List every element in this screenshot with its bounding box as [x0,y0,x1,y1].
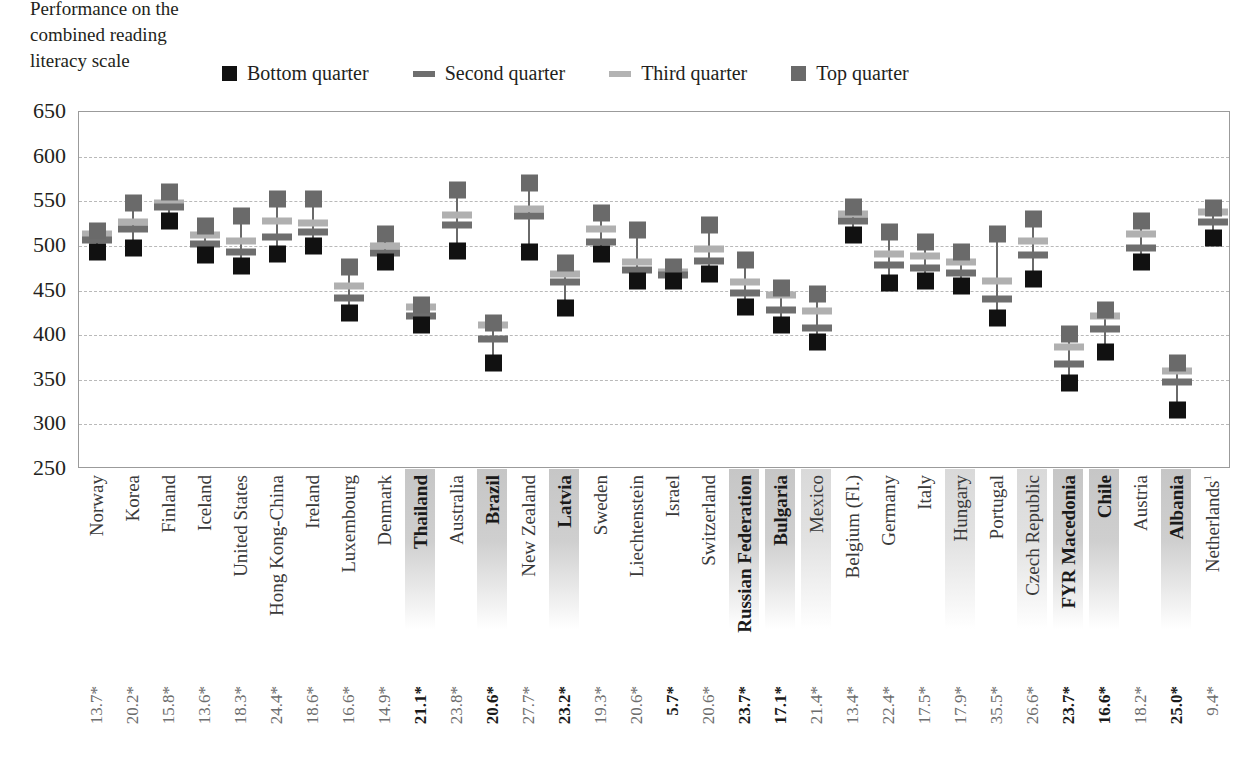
x-axis-label-text: Chile [1095,475,1114,518]
percent-value-column: 26.6* [1014,684,1050,758]
marker-second-quarter [1054,360,1084,367]
x-axis-label-text: United States [231,475,250,577]
x-axis-label-text: Portugal [987,475,1006,539]
percent-value-column: 9.4* [1194,684,1230,758]
marker-third-quarter [226,238,256,245]
legend-item-bottom-quarter[interactable]: Bottom quarter [222,62,369,85]
data-column [727,112,763,467]
x-axis-label-column: Korea [114,469,150,667]
x-axis-label-column: Luxembourg [330,469,366,667]
x-axis-label-text: Austria [1131,475,1150,531]
percent-value-column: 18.3* [222,684,258,758]
percent-value-column: 23.7* [726,684,762,758]
data-column [1087,112,1123,467]
marker-third-quarter [1054,343,1084,350]
marker-top-quarter [557,254,574,271]
marker-top-quarter [1097,302,1114,319]
legend-item-third-quarter[interactable]: Third quarter [609,62,747,85]
marker-top-quarter [1061,326,1078,343]
percent-value-column: 25.0* [1158,684,1194,758]
x-axis-label-text: Russian Federation [735,475,754,633]
percent-value-column: 17.9* [942,684,978,758]
legend-label-bottom-quarter: Bottom quarter [247,62,369,85]
marker-third-quarter [262,217,292,224]
x-axis-label-column: Switzerland [690,469,726,667]
marker-bottom-quarter [737,298,754,315]
x-axis-label-column: Portugal [978,469,1014,667]
x-axis-label-text: Korea [123,475,142,521]
x-axis-label-text: Czech Republic [1023,475,1042,596]
legend-label-third-quarter: Third quarter [641,62,747,85]
x-axis-label-column: Iceland [186,469,222,667]
y-tick-label-600: 600 [33,143,66,169]
marker-bottom-quarter [413,317,430,334]
marker-top-quarter [809,286,826,303]
legend-item-top-quarter[interactable]: Top quarter [791,62,908,85]
x-axis-label-column: Norway [78,469,114,667]
legend-label-top-quarter: Top quarter [816,62,908,85]
marker-bottom-quarter [125,239,142,256]
x-axis-label-text: Sweden [591,475,610,535]
x-axis-label-text: Belgium (Fl.) [843,475,862,578]
x-axis-label-text: Denmark [375,475,394,546]
data-column [403,112,439,467]
plot-area [78,111,1230,468]
x-axis-label-column: Denmark [366,469,402,667]
percent-value-text: 23.7* [1060,686,1077,724]
x-axis-label-text: Bulgaria [771,475,790,546]
data-column [655,112,691,467]
y-tick-label-350: 350 [33,366,66,392]
percent-value-text: 16.6* [340,686,357,724]
x-axis-label-text: Albania [1167,475,1186,539]
marker-second-quarter [154,204,184,211]
x-axis-label-column: New Zealand [510,469,546,667]
y-axis: 250300350400450500550600650 [0,111,72,468]
percent-value-column: 16.6* [1086,684,1122,758]
percent-value-text: 14.9* [376,686,393,724]
caption-line-3: literacy scale [30,48,220,74]
data-column [979,112,1015,467]
percent-value-text: 13.6* [196,686,213,724]
marker-bottom-quarter [161,212,178,229]
x-axis-label-column: Latvia [546,469,582,667]
marker-top-quarter [485,314,502,331]
x-axis-label-column: Mexico [798,469,834,667]
data-column [79,112,115,467]
marker-second-quarter [910,265,940,272]
marker-bottom-quarter [485,354,502,371]
legend-item-second-quarter[interactable]: Second quarter [413,62,566,85]
x-axis-label-text: Netherlands1 [1202,475,1221,572]
chart-legend: Bottom quarter Second quarter Third quar… [222,62,909,85]
marker-third-quarter [1018,238,1048,245]
data-column [475,112,511,467]
marker-top-quarter [161,184,178,201]
marker-third-quarter [694,245,724,252]
percent-value-text: 15.8* [160,686,177,724]
percent-value-column: 19.3* [582,684,618,758]
data-column [835,112,871,467]
marker-bottom-quarter [1061,375,1078,392]
bottom-percent-values: 13.7*20.2*15.8*13.6*18.3*24.4*18.6*16.6*… [78,684,1230,758]
data-column [187,112,223,467]
marker-third-quarter [874,250,904,257]
percent-value-text: 35.5* [988,686,1005,724]
data-column [943,112,979,467]
x-axis-label-text: Thailand [411,475,430,549]
marker-third-quarter [730,278,760,285]
marker-third-quarter [370,242,400,249]
marker-bottom-quarter [305,237,322,254]
y-tick-label-300: 300 [33,410,66,436]
x-axis-label-text: Finland [159,475,178,533]
marker-third-quarter [802,308,832,315]
x-axis-label-column: Finland [150,469,186,667]
y-tick-label-500: 500 [33,232,66,258]
marker-top-quarter [521,175,538,192]
percent-value-column: 27.7* [510,684,546,758]
x-axis-label-column: Thailand [402,469,438,667]
percent-value-column: 20.6* [690,684,726,758]
marker-bottom-quarter [773,317,790,334]
percent-value-text: 23.2* [556,686,573,724]
x-axis-label-text: FYR Macedonia [1059,475,1078,609]
x-axis-label-column: Russian Federation [726,469,762,667]
y-tick-label-250: 250 [33,455,66,481]
